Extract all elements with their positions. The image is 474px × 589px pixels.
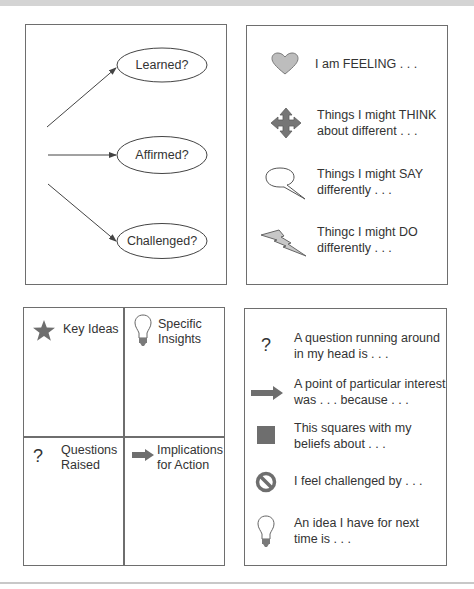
node-challenged: Challenged? [117,234,207,248]
starter-idea-line2: time is . . . [294,532,351,548]
cell-questions-raised-line1: Questions [61,443,117,459]
right-arrow-icon [131,448,155,462]
prompt-say-line1: Things I might SAY [317,166,423,182]
right-arrow-icon [250,385,284,401]
speech-bubble-icon [263,166,309,202]
starter-squares-line1: This squares with my [294,421,411,437]
cell-implications-line2: for Action [157,458,209,474]
heart-icon [271,52,299,76]
starter-idea-line1: An idea I have for next [294,516,419,532]
cell-questions-raised-line2: Raised [61,458,100,474]
cell-implications-line1: Implications [157,443,223,459]
question-mark-icon: ? [33,447,43,465]
starter-point-line1: A point of particular interest [294,377,445,393]
prompt-think-line1: Things I might THINK [317,107,436,123]
prompt-feeling-text: I am FEELING . . . [315,57,417,73]
cell-specific-insights-line2: Insights [158,332,201,348]
node-affirmed: Affirmed? [117,148,207,162]
prohibited-icon [255,471,277,493]
node-learned: Learned? [117,58,207,72]
starter-question-line1: A question running around [294,331,440,347]
grid-horizontal-divider [23,436,225,438]
starter-squares-line2: beliefs about . . . [294,437,386,453]
prompt-do-line1: Thingc I might DO [317,224,418,240]
star-icon [32,319,56,342]
cell-specific-insights-line1: Specific [158,317,202,333]
lightning-bolt-icon [259,228,309,258]
four-way-arrow-icon [270,107,302,139]
starter-point-line2: was . . . because . . . [294,393,409,409]
square-icon [257,426,275,444]
bottom-rule [0,582,474,584]
starter-challenged-text: I feel challenged by . . . [294,474,423,490]
starter-question-line2: in my head is . . . [294,347,388,363]
prompt-do-line2: differently . . . [317,240,392,256]
question-mark-icon: ? [261,336,271,354]
cell-key-ideas-label: Key Ideas [63,322,119,338]
prompt-think-line2: about different . . . [317,123,418,139]
light-bulb-icon [134,314,152,348]
prompt-say-line2: differently . . . [317,182,392,198]
light-bulb-icon [257,515,275,549]
